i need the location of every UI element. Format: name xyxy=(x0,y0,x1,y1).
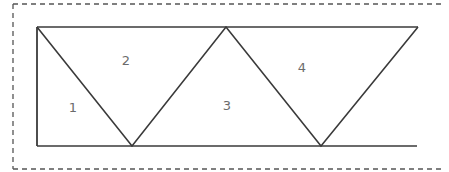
region-label-4: 4 xyxy=(298,60,306,75)
triangle-strip-diagram: 1 2 3 4 xyxy=(0,0,449,172)
zigzag-line xyxy=(37,27,418,146)
region-label-1: 1 xyxy=(69,100,77,115)
region-label-3: 3 xyxy=(223,98,231,113)
region-label-2: 2 xyxy=(122,53,130,68)
